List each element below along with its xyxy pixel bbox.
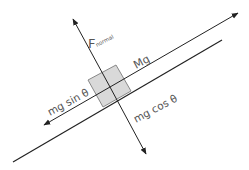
normal-force-subscript: normal xyxy=(95,33,115,48)
normal-force-arrow xyxy=(73,19,110,87)
mg-arrow xyxy=(110,13,238,87)
mg-cos-theta-label: mg cos θ xyxy=(131,92,179,125)
gravity-label: Mg xyxy=(131,52,152,71)
free-body-diagram: F normal Mg mg sin θ mg cos θ xyxy=(0,0,249,170)
